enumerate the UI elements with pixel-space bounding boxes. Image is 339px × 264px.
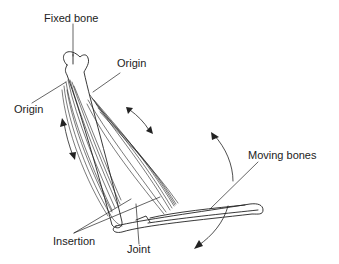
label-joint: Joint — [127, 244, 150, 255]
label-origin-left: Origin — [14, 104, 43, 115]
label-moving-bones: Moving bones — [248, 150, 317, 161]
label-insertion: Insertion — [53, 236, 95, 247]
right-muscle — [87, 95, 178, 214]
moving-bones — [113, 204, 263, 233]
muscle-diagram — [0, 0, 339, 264]
label-fixed-bone: Fixed bone — [44, 13, 98, 24]
label-origin-right: Origin — [117, 58, 146, 69]
